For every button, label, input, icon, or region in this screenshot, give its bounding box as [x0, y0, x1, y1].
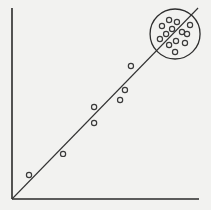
data-point	[173, 38, 178, 43]
data-point	[174, 19, 179, 24]
data-point	[117, 97, 122, 102]
data-point	[91, 104, 96, 109]
data-point	[91, 120, 96, 125]
data-point	[163, 31, 168, 36]
data-point	[60, 151, 65, 156]
regression-line	[12, 8, 198, 199]
data-point	[128, 63, 133, 68]
scatter-chart	[0, 0, 211, 210]
data-point	[166, 17, 171, 22]
data-point	[184, 31, 189, 36]
data-point	[26, 172, 31, 177]
data-point	[182, 40, 187, 45]
data-point	[157, 36, 162, 41]
data-points	[26, 17, 192, 177]
cluster-highlight-circle	[150, 9, 200, 59]
data-point	[179, 29, 184, 34]
data-point	[159, 23, 164, 28]
data-point	[187, 22, 192, 27]
data-point	[166, 42, 171, 47]
data-point	[122, 87, 127, 92]
data-point	[169, 26, 174, 31]
data-point	[172, 49, 177, 54]
